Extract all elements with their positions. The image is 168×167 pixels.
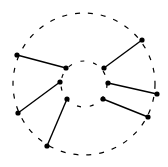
inner-node-dot (101, 65, 106, 70)
outer-node-dot (15, 110, 20, 115)
inner-node-dot (57, 79, 62, 84)
outer-node-dot (154, 91, 159, 96)
inner-node-dot (64, 96, 69, 101)
edge-line (108, 83, 157, 94)
outer-node-dot (14, 52, 19, 57)
inner-node-dot (100, 96, 105, 101)
inner-node-dot (63, 65, 68, 70)
edge-line (104, 40, 142, 68)
edge-group (14, 37, 159, 148)
outer-dashed-circle (13, 13, 155, 155)
edge-line (47, 99, 67, 146)
edge-line (18, 82, 60, 113)
outer-node-dot (139, 37, 144, 42)
edge-line (103, 99, 148, 117)
outer-node-dot (145, 114, 150, 119)
inner-node-dot (105, 80, 110, 85)
circle-edge-diagram (0, 0, 168, 167)
edge-line (17, 55, 66, 68)
outer-node-dot (44, 143, 49, 148)
